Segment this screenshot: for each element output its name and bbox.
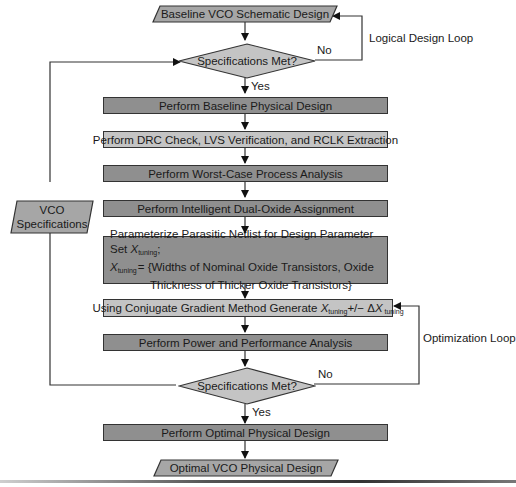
step-baseline-physical-design: Perform Baseline Physical Design bbox=[103, 97, 388, 114]
step-drc-lvs-rclk: Perform DRC Check, LVS Verification, and… bbox=[103, 131, 388, 148]
start-label: Baseline VCO Schematic Design bbox=[152, 5, 338, 23]
end-label: Optimal VCO Physical Design bbox=[153, 459, 339, 477]
specs-line-1: VCO bbox=[40, 203, 65, 217]
step-5-line-3: Thickness of Thicker Oxide Transistors} bbox=[110, 278, 352, 293]
step-5-line-1: Parameterize Parasitic Netlist for Desig… bbox=[110, 227, 381, 260]
end-node: Optimal VCO Physical Design bbox=[153, 459, 339, 477]
decision-specs-met-2: Specifications Met? bbox=[178, 367, 316, 405]
decision-specs-met-1: Specifications Met? bbox=[178, 43, 316, 79]
edge-label-yes-1: Yes bbox=[251, 80, 270, 92]
step-conjugate-gradient: Using Conjugate Gradient Method Generate… bbox=[103, 299, 393, 317]
step-3-label: Perform Worst-Case Process Analysis bbox=[148, 168, 343, 180]
step-dual-oxide-assignment: Perform Intelligent Dual-Oxide Assignmen… bbox=[103, 200, 388, 217]
step-6-label: Using Conjugate Gradient Method Generate… bbox=[92, 302, 403, 315]
edge-label-no-1: No bbox=[317, 44, 332, 56]
step-4-label: Perform Intelligent Dual-Oxide Assignmen… bbox=[137, 203, 354, 215]
step-1-label: Perform Baseline Physical Design bbox=[159, 100, 332, 112]
step-worst-case-analysis: Perform Worst-Case Process Analysis bbox=[103, 165, 388, 182]
logical-loop-label: Logical Design Loop bbox=[369, 32, 473, 44]
step-5-line-2: Xtuning = {Widths of Nominal Oxide Trans… bbox=[110, 260, 374, 278]
step-power-performance: Perform Power and Performance Analysis bbox=[103, 334, 388, 351]
step-optimal-physical-design: Perform Optimal Physical Design bbox=[103, 424, 388, 441]
bottom-rule bbox=[0, 480, 516, 483]
specs-line-2: Specifications bbox=[17, 217, 88, 231]
edge-label-yes-2: Yes bbox=[252, 406, 271, 418]
decision-1-label: Specifications Met? bbox=[178, 43, 316, 79]
vco-specifications-node: VCO Specifications bbox=[10, 200, 94, 234]
step-2-label: Perform DRC Check, LVS Verification, and… bbox=[93, 134, 398, 146]
step-8-label: Perform Optimal Physical Design bbox=[161, 427, 330, 439]
edge-label-no-2: No bbox=[318, 368, 333, 380]
decision-2-label: Specifications Met? bbox=[178, 367, 316, 405]
step-parameterize-netlist: Parameterize Parasitic Netlist for Desig… bbox=[103, 236, 388, 284]
step-7-label: Perform Power and Performance Analysis bbox=[139, 337, 352, 349]
optimization-loop-label: Optimization Loop bbox=[423, 332, 516, 344]
start-node: Baseline VCO Schematic Design bbox=[152, 5, 338, 23]
